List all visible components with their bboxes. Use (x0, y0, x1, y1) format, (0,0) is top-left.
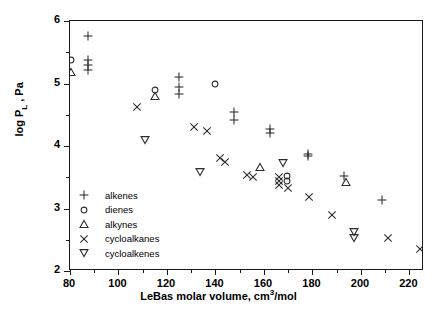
y-tick-minor (66, 177, 70, 178)
y-tick-minor (66, 52, 70, 53)
x-tick-label: 100 (97, 277, 137, 289)
x-tick-minor (337, 269, 338, 273)
data-point-cycloalkenes (140, 135, 150, 145)
data-point-dienes (150, 85, 160, 95)
x-tick-major (70, 269, 71, 275)
x-tick-label: 220 (388, 277, 428, 289)
y-tick-minor (66, 240, 70, 241)
x-axis-title-pre: LeBas molar volume, cm (140, 290, 270, 302)
x-tick-major (312, 269, 313, 275)
data-point-cycloalkanes (202, 126, 212, 136)
plus-icon (76, 189, 92, 201)
data-point-alkynes (70, 67, 76, 77)
x-tick-major (167, 269, 168, 275)
data-point-alkenes (339, 171, 349, 181)
cross-icon (76, 233, 92, 245)
x-tick-minor (385, 269, 386, 273)
y-tick-minor (66, 115, 70, 116)
data-point-alkenes (265, 128, 275, 138)
data-point-cycloalkenes (278, 158, 288, 168)
legend-item-label: cycloalkenes (92, 248, 159, 259)
data-point-cycloalkanes (283, 183, 293, 193)
data-point-alkenes (174, 82, 184, 92)
x-tick-label: 180 (291, 277, 331, 289)
data-point-cycloalkenes (195, 167, 205, 177)
x-tick-minor (240, 269, 241, 273)
data-point-alkenes (174, 72, 184, 82)
triangle-up-icon (76, 218, 92, 230)
y-tick-label: 6 (38, 13, 60, 25)
data-point-alkenes (174, 89, 184, 99)
x-tick-minor (94, 269, 95, 273)
data-point-alkenes (303, 151, 313, 161)
x-tick-major (361, 269, 362, 275)
y-tick-major (64, 146, 70, 147)
y-tick-label: 4 (38, 138, 60, 150)
data-point-dienes (210, 79, 220, 89)
data-point-dienes (282, 171, 292, 181)
y-axis-title: log PL , Pa (13, 115, 28, 137)
triangle-down-icon (76, 247, 92, 259)
data-point-alkenes (83, 55, 93, 65)
legend: alkenesdienesalkynescycloalkanescycloalk… (76, 188, 159, 261)
legend-item-cycloalkanes[interactable]: cycloalkanes (76, 232, 159, 247)
data-point-dienes (282, 176, 292, 186)
legend-item-label: alkenes (92, 190, 138, 201)
data-point-cycloalkanes (132, 102, 142, 112)
data-point-cycloalkanes (215, 153, 225, 163)
x-axis-title-post: /mol (274, 290, 297, 302)
x-tick-minor (191, 269, 192, 273)
y-tick-label: 3 (38, 201, 60, 213)
y-tick-label: 5 (38, 76, 60, 88)
x-tick-major (118, 269, 119, 275)
y-axis-title-pre: log P (13, 110, 25, 137)
legend-item-label: dienes (92, 204, 133, 215)
legend-item-label: cycloalkanes (92, 233, 159, 244)
legend-item-label: alkynes (92, 219, 137, 230)
y-tick-label: 2 (38, 263, 60, 275)
data-point-cycloalkanes (220, 157, 230, 167)
y-tick-major (64, 84, 70, 85)
data-point-dienes (70, 55, 76, 65)
data-point-cycloalkanes (248, 172, 258, 182)
legend-item-cycloalkenes[interactable]: cycloalkenes (76, 246, 159, 261)
data-point-alkenes (229, 115, 239, 125)
x-tick-minor (288, 269, 289, 273)
legend-item-alkynes[interactable]: alkynes (76, 217, 159, 232)
x-tick-major (264, 269, 265, 275)
y-axis-title-post: , Pa (13, 82, 25, 105)
x-tick-label: 120 (146, 277, 186, 289)
x-tick-minor (143, 269, 144, 273)
x-tick-label: 140 (194, 277, 234, 289)
x-tick-label: 200 (340, 277, 380, 289)
legend-item-dienes[interactable]: dienes (76, 203, 159, 218)
data-point-cycloalkanes (304, 192, 314, 202)
data-point-cycloalkenes (349, 227, 359, 237)
data-point-alkenes (377, 195, 387, 205)
circle-icon (76, 204, 92, 216)
data-point-alkenes (229, 107, 239, 117)
data-point-alkenes (83, 60, 93, 70)
y-axis-title-sub: L (20, 105, 29, 110)
data-point-cycloalkanes (274, 180, 284, 190)
data-point-alkenes (303, 149, 313, 159)
data-point-alkynes (150, 91, 160, 101)
data-point-cycloalkenes (349, 233, 359, 243)
scatter-plot-figure: log PL , Pa LeBas molar volume, cm3/mol … (0, 0, 437, 311)
x-tick-major (215, 269, 216, 275)
data-point-cycloalkanes (383, 233, 393, 243)
data-point-alkenes (83, 31, 93, 41)
x-tick-major (409, 269, 410, 275)
data-point-cycloalkanes (189, 122, 199, 132)
data-point-alkenes (83, 65, 93, 75)
y-tick-major (64, 209, 70, 210)
x-tick-label: 80 (49, 277, 89, 289)
data-point-cycloalkanes (274, 172, 284, 182)
x-axis-title: LeBas molar volume, cm3/mol (0, 288, 437, 302)
y-tick-major (64, 21, 70, 22)
legend-item-alkenes[interactable]: alkenes (76, 188, 159, 203)
data-point-cycloalkanes (327, 210, 337, 220)
x-tick-label: 160 (243, 277, 283, 289)
data-point-cycloalkanes (242, 170, 252, 180)
data-point-alkynes (255, 162, 265, 172)
